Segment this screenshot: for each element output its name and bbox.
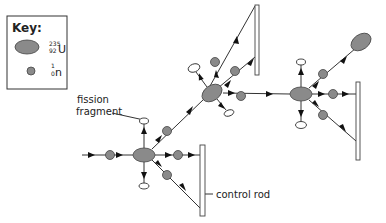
uranium-symbol: U bbox=[58, 43, 66, 56]
neutron-icon bbox=[329, 90, 338, 99]
uranium-nucleus-icon bbox=[348, 30, 375, 55]
control-rod-label: control rod bbox=[216, 189, 270, 200]
fission-fragment-icon bbox=[140, 118, 149, 124]
neutron-icon bbox=[237, 92, 246, 101]
fission-fragment-icon bbox=[187, 62, 201, 74]
neutron-icon bbox=[163, 171, 172, 180]
chain-reaction-diagram: Key: 235 92 U 1 0 n bbox=[0, 0, 386, 223]
neutron-key-icon bbox=[27, 67, 35, 75]
neutron-symbol: n bbox=[55, 66, 62, 79]
control-rod-2 bbox=[255, 5, 259, 75]
key-title: Key: bbox=[12, 21, 42, 35]
uranium-nucleus-icon bbox=[199, 81, 226, 106]
fission-fragments bbox=[139, 59, 307, 189]
key-box: Key: 235 92 U 1 0 n bbox=[7, 16, 67, 89]
reaction-paths bbox=[82, 6, 356, 208]
uranium-key-icon bbox=[15, 40, 39, 54]
control-rod-1 bbox=[200, 145, 205, 216]
neutron-icon bbox=[231, 67, 240, 76]
fission-fragment-icon bbox=[223, 108, 234, 117]
control-rod-3 bbox=[356, 82, 360, 160]
fission-fragment-label-line1: fission bbox=[77, 94, 109, 105]
fission-fragment-icon bbox=[139, 183, 149, 189]
uranium-nucleus-icon bbox=[133, 148, 155, 162]
uranium-atomic-number: 92 bbox=[49, 47, 57, 54]
neutron-icon bbox=[319, 111, 328, 120]
neutron-icon bbox=[106, 151, 115, 160]
neutron-icon bbox=[174, 151, 183, 160]
fission-fragment-icon bbox=[297, 59, 306, 65]
neutron-icon bbox=[163, 127, 172, 136]
fission-fragment-label-line2: fragment bbox=[76, 106, 122, 117]
control-rods bbox=[200, 5, 360, 216]
uranium-nucleus-icon bbox=[290, 87, 312, 101]
neutron-icon bbox=[211, 58, 220, 67]
fission-fragment-icon bbox=[296, 122, 307, 129]
neutron-icon bbox=[319, 70, 328, 79]
uranium-nuclei bbox=[133, 30, 374, 162]
